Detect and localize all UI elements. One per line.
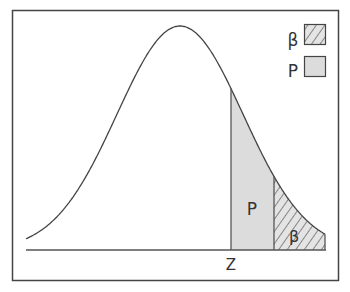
- legend-beta-label: β: [288, 30, 299, 50]
- legend-beta-swatch: [305, 25, 326, 45]
- p-region-label: P: [247, 199, 257, 219]
- legend-p-swatch: [305, 57, 326, 77]
- diagram-canvas: Z P β β P: [0, 0, 350, 292]
- beta-region-label: β: [289, 227, 299, 246]
- z-label: Z: [226, 256, 236, 274]
- legend-p-label: P: [288, 61, 298, 81]
